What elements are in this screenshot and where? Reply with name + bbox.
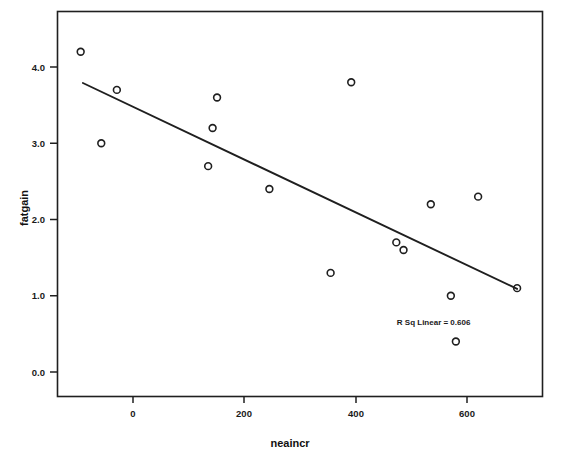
y-tick-label-1: 1.0: [32, 290, 45, 301]
data-point: [427, 201, 434, 208]
y-tick-label-2: 2.0: [32, 214, 45, 225]
data-point: [400, 247, 407, 254]
y-tick-label-3: 3.0: [32, 138, 45, 149]
plot-frame: [58, 12, 543, 397]
data-point: [98, 140, 105, 147]
data-point: [475, 193, 482, 200]
y-axis-ticks: [50, 67, 57, 372]
regression-line: [83, 83, 517, 289]
r-squared-annotation: R Sq Linear = 0.606: [397, 318, 471, 327]
x-tick-label-0: 0: [130, 408, 135, 419]
x-axis-title: neaincr: [270, 437, 310, 449]
data-point: [209, 125, 216, 132]
data-point: [327, 269, 334, 276]
y-tick-label-0: 0.0: [32, 367, 45, 378]
regression-line-segment: [83, 83, 517, 289]
data-point-series: [77, 48, 520, 345]
y-tick-label-4: 4.0: [32, 62, 45, 73]
data-point: [77, 48, 84, 55]
x-tick-label-400: 400: [348, 408, 364, 419]
x-tick-label-200: 200: [236, 408, 252, 419]
data-point: [393, 239, 400, 246]
y-axis-title: fatgain: [18, 190, 30, 226]
data-point: [447, 292, 454, 299]
plot-canvas: 0 200 400 600 0.0 1.0 2.0 3.0 4.0 fatgai…: [0, 0, 563, 465]
data-point: [452, 338, 459, 345]
x-tick-label-600: 600: [459, 408, 475, 419]
data-point: [205, 163, 212, 170]
data-point: [348, 79, 355, 86]
data-point: [113, 86, 120, 93]
annotation-layer: R Sq Linear = 0.606: [397, 318, 471, 327]
data-point: [266, 186, 273, 193]
data-point: [214, 94, 221, 101]
scatter-plot-figure: 0 200 400 600 0.0 1.0 2.0 3.0 4.0 fatgai…: [0, 0, 563, 465]
